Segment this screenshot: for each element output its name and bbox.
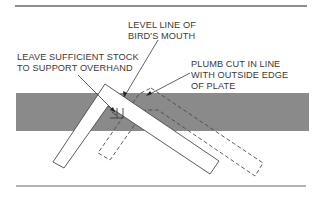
label-plumb-cut: PLUMB CUT IN LINE WITH OUTSIDE EDGE OF P… xyxy=(191,59,291,91)
label-level-line-1: LEVEL LINE OF xyxy=(128,20,196,30)
label-plumb-cut-2: WITH OUTSIDE EDGE xyxy=(191,70,288,80)
label-level-line: LEVEL LINE OF BIRD'S MOUTH xyxy=(128,20,199,41)
label-leave-stock: LEAVE SUFFICIENT STOCK TO SUPPORT OVERHA… xyxy=(17,52,141,73)
label-plumb-cut-1: PLUMB CUT IN LINE xyxy=(191,59,280,69)
diagram-canvas: LEVEL LINE OF BIRD'S MOUTH LEAVE SUFFICI… xyxy=(0,0,324,199)
label-level-line-2: BIRD'S MOUTH xyxy=(128,31,195,41)
label-leave-stock-2: TO SUPPORT OVERHAND xyxy=(17,63,133,73)
label-plumb-cut-3: OF PLATE xyxy=(191,81,236,91)
leader-plumb-cut xyxy=(148,73,190,95)
label-leave-stock-1: LEAVE SUFFICIENT STOCK xyxy=(17,52,139,62)
